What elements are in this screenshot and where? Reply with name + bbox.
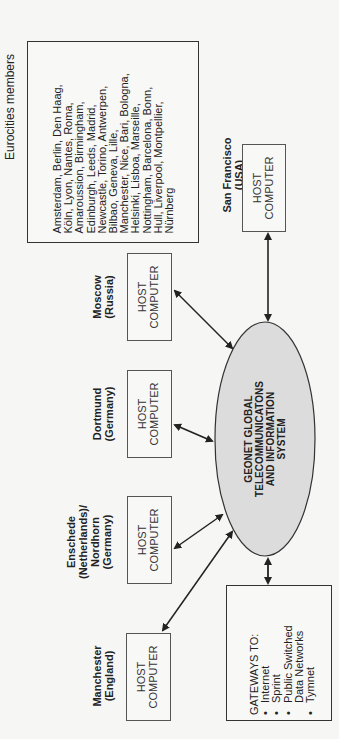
location-label-moscow: Moscow (Russia) [91, 257, 117, 337]
member-line: Helsinki, Lisboa, Marseille, [130, 54, 141, 234]
eurocities-title: Eurocities members [4, 51, 18, 163]
eurocities-members-list: Amsterdam, Berlin, Den Haag, Köln, Lyon,… [49, 54, 176, 234]
arrow-enschede [175, 515, 222, 548]
center-line: GEONET GLOBAL [243, 374, 254, 504]
bullet-icon: • [305, 703, 316, 715]
host-line: COMPUTER [263, 144, 275, 232]
location-line: (England) [103, 636, 115, 716]
location-label-dortmund: Dortmund (Germany) [91, 374, 117, 454]
location-line: Moscow [91, 257, 103, 337]
center-line: TELECOMMUNICATONS [254, 374, 265, 504]
location-line: Enschede [65, 496, 77, 588]
bullet-icon: • [271, 703, 282, 715]
host-line: COMPUTER [148, 496, 160, 584]
center-line: SYSTEM [276, 374, 287, 504]
host-line: HOST [136, 370, 148, 458]
location-line: Manchester [91, 636, 103, 716]
location-line: (Germany) [103, 374, 115, 454]
location-label-enschede: Enschede (Netherlands)/ Nordhorn (German… [65, 496, 115, 588]
location-line: (Germany) [101, 496, 113, 588]
host-computer-label: HOST COMPUTER [251, 144, 277, 232]
host-line: COMPUTER [148, 370, 160, 458]
arrow-moscow [175, 291, 232, 348]
host-line: HOST [251, 144, 263, 232]
host-line: HOST [136, 253, 148, 341]
arrow-manchester [163, 532, 232, 630]
gateway-text: Sprint [270, 674, 282, 703]
host-line: COMPUTER [147, 633, 159, 721]
location-line: (Netherlands)/ [77, 496, 89, 588]
member-line: Amaroussion, Birmingham, [74, 54, 85, 234]
host-computer-label: HOST COMPUTER [135, 633, 161, 721]
host-computer-label: HOST COMPUTER [136, 496, 162, 584]
location-label-manchester: Manchester (England) [91, 636, 117, 716]
host-line: COMPUTER [148, 253, 160, 341]
host-line: HOST [135, 633, 147, 721]
gateway-text: Public Switched [282, 625, 294, 703]
gateways-list: GATEWAYS TO: •Internet •Sprint •Public S… [249, 595, 309, 715]
gateway-text: Internet [259, 666, 271, 703]
bullet-icon: • [283, 703, 294, 715]
location-line: Dortmund [91, 374, 103, 454]
location-line: Nordhorn [89, 496, 101, 588]
gateway-text: Data Networks [293, 631, 305, 703]
geonet-system-label: GEONET GLOBAL TELECOMMUNICATONS AND INFO… [243, 374, 287, 504]
gateway-text: Tymnet [304, 667, 316, 703]
arrow-dortmund [175, 425, 212, 441]
host-computer-label: HOST COMPUTER [136, 253, 162, 341]
gateway-item: •Tymnet [305, 595, 316, 715]
member-line: Nürnberg [164, 54, 175, 234]
host-line: HOST [136, 496, 148, 584]
host-computer-label: HOST COMPUTER [136, 370, 162, 458]
location-line: San Francisco [221, 131, 233, 219]
center-line: AND INFORMATION [265, 374, 276, 504]
location-line: (Russia) [103, 257, 115, 337]
